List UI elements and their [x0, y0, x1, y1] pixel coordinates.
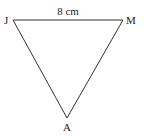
vertex-label-m: M	[126, 14, 136, 26]
side-label-jm: 8 cm	[57, 5, 79, 17]
vertex-label-a: A	[63, 121, 71, 133]
triangle-jma	[13, 20, 123, 118]
vertex-label-j: J	[4, 14, 9, 26]
triangle-diagram: 8 cm J M A	[0, 0, 144, 136]
